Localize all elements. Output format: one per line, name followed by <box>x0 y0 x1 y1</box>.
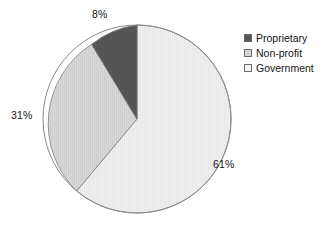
legend-item-government[interactable]: Government <box>244 61 314 74</box>
legend-item-nonprofit[interactable]: Non-profit <box>244 46 314 59</box>
pie-value-label-proprietary: 8% <box>92 8 108 20</box>
legend-item-proprietary[interactable]: Proprietary <box>244 31 314 44</box>
chart-legend: Proprietary Non-profit Government <box>244 31 314 74</box>
legend-label-nonprofit: Non-profit <box>256 47 302 59</box>
legend-label-government: Government <box>256 62 314 74</box>
pie-chart: 8% 31% 61% Proprietary Non-profit Govern… <box>0 0 327 228</box>
legend-swatch-icon-proprietary <box>244 34 252 42</box>
legend-swatch-icon-government <box>244 64 252 72</box>
pie-value-label-nonprofit: 31% <box>11 109 33 121</box>
legend-label-proprietary: Proprietary <box>256 32 307 44</box>
pie-value-label-government: 61% <box>213 158 235 170</box>
legend-swatch-icon-nonprofit <box>244 49 252 57</box>
